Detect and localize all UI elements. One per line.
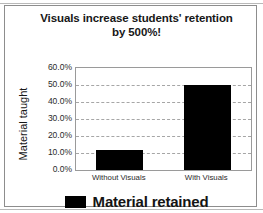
chart-screenshot: Visuals increase students' retention by …: [0, 0, 263, 213]
y-tick-label-0.0%: 0.0%: [28, 165, 72, 174]
y-tick-label-10.0%: 10.0%: [28, 148, 72, 157]
chart-title-line-1-text: Visuals increase students' retention: [15, 12, 258, 26]
figure-frame: Visuals increase students' retention by …: [4, 5, 257, 207]
y-tick-label-60.0%: 60.0%: [28, 63, 72, 72]
legend-swatch-material-retained: [65, 196, 86, 208]
x-axis-category-labels: Without VisualsWith Visuals: [75, 173, 252, 185]
y-axis-tick-labels: 0.0%10.0%20.0%30.0%40.0%50.0%60.0%: [27, 67, 72, 171]
top-divider-line: [0, 3, 263, 4]
legend-label-material-retained: Material retained: [93, 194, 209, 210]
y-tick-label-50.0%: 50.0%: [28, 80, 72, 89]
plot-inner: [76, 68, 251, 170]
top-margin-strip: [0, 0, 263, 4]
chart-title-line-2-text: by 500%!: [15, 26, 258, 40]
x-label-without-visuals: Without Visuals: [75, 173, 163, 183]
y-tick-label-30.0%: 30.0%: [28, 114, 72, 123]
y-tick-label-40.0%: 40.0%: [28, 97, 72, 106]
bar-with-visuals: [184, 85, 231, 170]
y-tick-label-20.0%: 20.0%: [28, 131, 72, 140]
bar-without-visuals: [96, 150, 143, 170]
chart-title: Visuals increase students' retention by …: [15, 12, 258, 39]
bottom-divider-line: [0, 209, 263, 210]
plot-area: [75, 67, 252, 171]
x-label-with-visuals: With Visuals: [163, 173, 251, 183]
